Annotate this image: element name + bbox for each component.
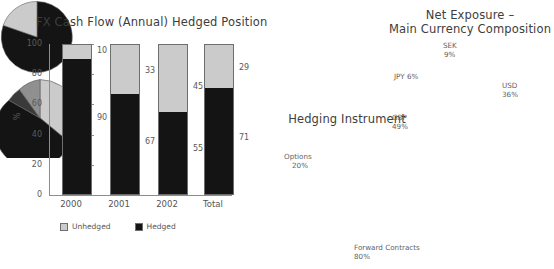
y-axis-title: % [13,113,22,121]
bar-chart-legend: Unhedged Hedged [60,222,176,231]
bar-2002-unhedged-value: 45 [193,82,203,91]
bar-2000-unhedged-segment [62,44,92,59]
hedging-value-forward-contracts: 80% [354,252,370,261]
legend-swatch-unhedged-icon [60,223,68,231]
legend-label-unhedged: Unhedged [72,222,111,231]
currency-value-usd: 36% [502,90,518,99]
y-axis-line [49,44,50,196]
legend-item-unhedged: Unhedged [60,222,111,231]
y-tick-0: 0 [45,195,49,196]
legend-item-hedged: Hedged [135,222,176,231]
x-category-2002: 2002 [145,199,189,209]
hedging-pie-title: Hedging Instrument [286,112,408,126]
y-tick-20: 20 [45,165,49,166]
x-category-total: Total [191,199,235,209]
hedging-label-forward-contracts: Forward Contracts [354,243,420,252]
x-category-2000: 2000 [49,199,93,209]
currency-label-jpy: JPY 6% [394,72,418,81]
y-tick-label-60: 60 [32,99,42,108]
currency-value-sek: 9% [444,50,455,59]
fx-hedged-position-bar-chart: FX Cash Flow (Annual) Hedged Position 10… [0,0,280,269]
bar-2000-unhedged-value: 10 [97,46,107,55]
bar-2000 [62,44,92,195]
currency-value-gbp: 49% [392,122,408,131]
y-tick-100: 100 [45,44,49,45]
legend-label-hedged: Hedged [147,222,176,231]
currency-label-gbp: GBP [392,113,407,122]
bar-2001-unhedged-segment [110,44,140,94]
y-tick-label-80: 80 [32,69,42,78]
bar-total-unhedged-value: 29 [239,63,249,72]
bar-2000-hedged-segment [62,59,92,195]
bar-2002-hedged-segment [158,112,188,195]
bar-total [204,44,234,195]
hedging-value-options: 20% [292,161,308,170]
x-axis-line [49,195,232,196]
currency-label-usd: USD [502,81,517,90]
bar-chart-title: FX Cash Flow (Annual) Hedged Position [36,15,248,29]
bar-2001-hedged-value: 67 [145,137,155,146]
x-category-2001: 2001 [97,199,141,209]
y-tick-label-40: 40 [32,130,42,139]
y-tick-label-0: 0 [37,190,42,199]
y-tick-40: 40 [45,135,49,136]
bar-2001 [110,44,140,195]
bar-total-hedged-value: 71 [239,133,249,142]
y-tick-80: 80 [45,74,49,75]
legend-swatch-hedged-icon [135,223,143,231]
bar-2002 [158,44,188,195]
currency-label-sek: SEK [443,41,457,50]
bar-2000-hedged-value: 90 [97,113,107,122]
hedging-label-options: Options [284,152,312,161]
y-tick-label-20: 20 [32,160,42,169]
net-exposure-title-line-1: Net Exposure – [400,8,540,22]
bar-2001-hedged-segment [110,94,140,195]
y-tick-60: 60 [45,104,49,105]
bar-2002-unhedged-segment [158,44,188,112]
net-exposure-title-line-2: Main Currency Composition [386,22,554,36]
bar-total-unhedged-segment [204,44,234,88]
bar-2002-hedged-value: 55 [193,144,203,153]
y-tick-label-100: 100 [27,39,42,48]
bar-2001-unhedged-value: 33 [145,66,155,75]
bar-total-hedged-segment [204,88,234,195]
